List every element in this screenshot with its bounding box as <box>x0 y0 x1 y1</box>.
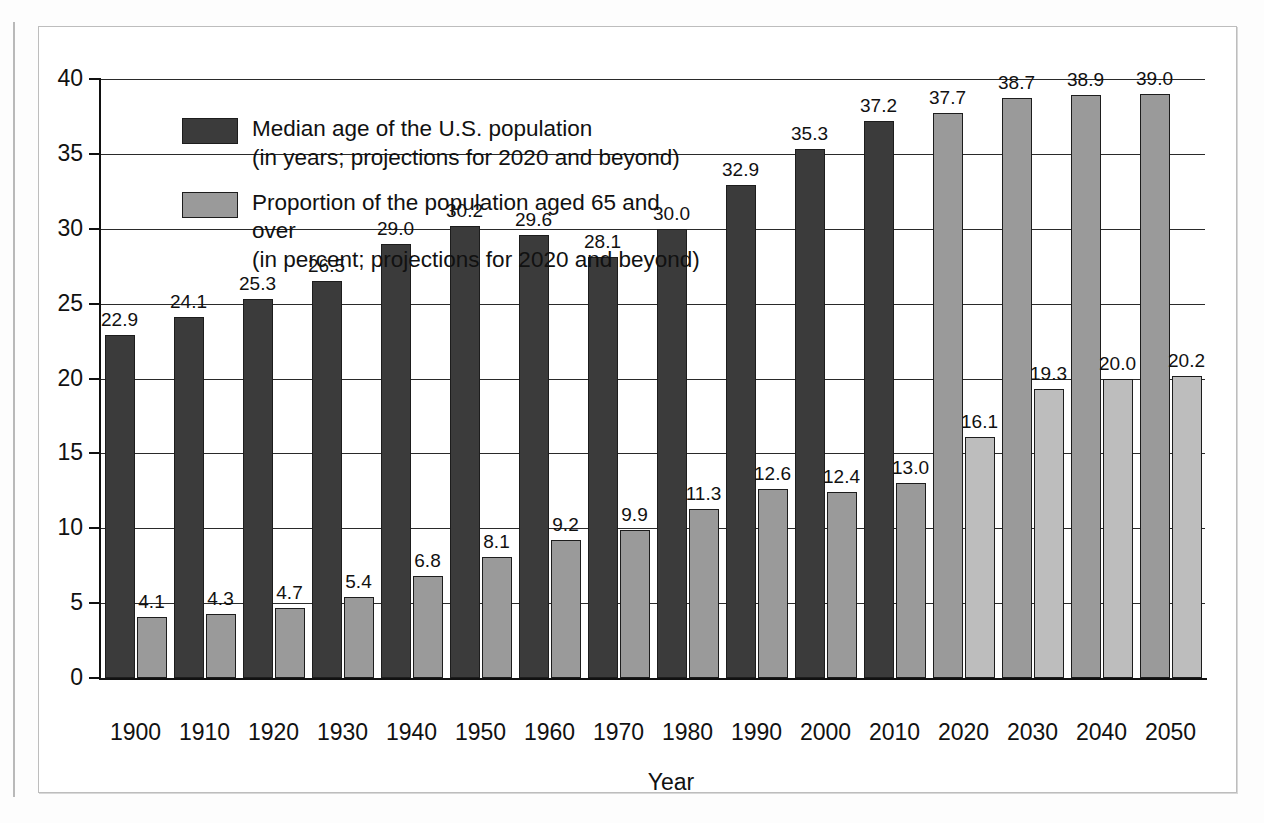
y-axis-label: 35 <box>21 142 83 165</box>
x-axis-label: 1970 <box>593 721 644 744</box>
bar <box>1103 379 1133 679</box>
bar <box>933 113 963 678</box>
bar <box>1002 98 1032 678</box>
y-axis-tick <box>89 378 101 380</box>
bar-value-label: 24.1 <box>170 292 207 311</box>
figure-frame: 051015202530354022.94.1190024.14.3191025… <box>38 26 1237 793</box>
x-axis-label: 1950 <box>455 721 506 744</box>
bar-value-label: 32.9 <box>722 160 759 179</box>
bar <box>758 489 788 678</box>
bar-value-label: 9.2 <box>552 515 578 534</box>
x-axis-label: 2040 <box>1076 721 1127 744</box>
bar-value-label: 20.2 <box>1168 351 1205 370</box>
y-axis-tick <box>89 452 101 454</box>
y-axis-label: 25 <box>21 292 83 315</box>
bar <box>381 244 411 678</box>
legend-label-line1: Median age of the U.S. population <box>252 115 680 144</box>
bar-value-label: 20.0 <box>1099 354 1136 373</box>
legend-swatch <box>182 118 238 144</box>
legend-label-line1: Proportion of the population aged 65 and… <box>252 189 702 247</box>
bar-value-label: 4.1 <box>138 592 164 611</box>
y-axis-tick <box>89 602 101 604</box>
bar <box>206 614 236 678</box>
y-axis-tick <box>89 153 101 155</box>
bar-value-label: 5.4 <box>345 572 371 591</box>
y-axis-tick <box>89 527 101 529</box>
bar-value-label: 16.1 <box>961 412 998 431</box>
bar-value-label: 39.0 <box>1136 69 1173 88</box>
legend-item: Median age of the U.S. population(in yea… <box>182 115 702 173</box>
bar-value-label: 38.9 <box>1067 70 1104 89</box>
bar <box>413 576 443 678</box>
y-axis-tick <box>89 677 101 679</box>
bar-value-label: 38.7 <box>998 73 1035 92</box>
x-axis-label: 1960 <box>524 721 575 744</box>
bar <box>588 257 618 678</box>
bar <box>450 226 480 678</box>
bar <box>620 530 650 678</box>
bar <box>657 229 687 678</box>
page-edge-rule <box>13 22 15 797</box>
bar <box>174 317 204 678</box>
y-axis-label: 30 <box>21 217 83 240</box>
bar <box>312 281 342 678</box>
bar <box>243 299 273 678</box>
y-axis-label: 40 <box>21 67 83 90</box>
bar <box>827 492 857 678</box>
bar <box>795 149 825 678</box>
bar-value-label: 8.1 <box>483 532 509 551</box>
bar <box>1034 389 1064 678</box>
bar <box>482 557 512 678</box>
bar <box>726 185 756 678</box>
bar <box>551 540 581 678</box>
y-axis-label: 5 <box>21 591 83 614</box>
x-axis-line <box>99 678 1207 680</box>
x-axis-label: 1900 <box>110 721 161 744</box>
legend-label: Proportion of the population aged 65 and… <box>252 189 702 275</box>
x-axis-label: 1990 <box>731 721 782 744</box>
bar-value-label: 19.3 <box>1030 364 1067 383</box>
bar-value-label: 12.6 <box>754 464 791 483</box>
bar <box>519 235 549 678</box>
x-axis-label: 2010 <box>869 721 920 744</box>
figure-page: 051015202530354022.94.1190024.14.3191025… <box>0 0 1264 823</box>
legend-item: Proportion of the population aged 65 and… <box>182 189 702 275</box>
legend-swatch <box>182 192 238 218</box>
bar-value-label: 12.4 <box>823 467 860 486</box>
bar <box>1140 94 1170 678</box>
x-axis-label: 1920 <box>248 721 299 744</box>
x-axis-label: 1910 <box>179 721 230 744</box>
x-axis-label: 1940 <box>386 721 437 744</box>
bar-value-label: 37.2 <box>860 96 897 115</box>
bar-value-label: 6.8 <box>414 551 440 570</box>
bar <box>689 509 719 678</box>
y-axis-label: 15 <box>21 441 83 464</box>
bar-value-label: 37.7 <box>929 88 966 107</box>
bar <box>864 121 894 678</box>
bar <box>965 437 995 678</box>
bar <box>896 483 926 678</box>
x-axis-title: Year <box>39 769 1264 796</box>
y-axis-tick <box>89 228 101 230</box>
bar <box>344 597 374 678</box>
x-axis-label: 2050 <box>1145 721 1196 744</box>
legend-label: Median age of the U.S. population(in yea… <box>252 115 680 173</box>
y-axis-label: 20 <box>21 367 83 390</box>
x-axis-label: 2020 <box>938 721 989 744</box>
gridline <box>101 79 1205 80</box>
bar <box>1172 376 1202 678</box>
chart-legend: Median age of the U.S. population(in yea… <box>182 115 702 291</box>
bar-value-label: 11.3 <box>686 484 722 503</box>
bar <box>1071 95 1101 678</box>
bar-value-label: 9.9 <box>621 505 647 524</box>
x-axis-label: 1980 <box>662 721 713 744</box>
y-axis-label: 0 <box>21 666 83 689</box>
bar-value-label: 35.3 <box>791 124 828 143</box>
x-axis-label: 1930 <box>317 721 368 744</box>
bar-value-label: 22.9 <box>101 310 138 329</box>
bar-value-label: 13.0 <box>892 458 929 477</box>
x-axis-label: 2030 <box>1007 721 1058 744</box>
bar <box>105 335 135 678</box>
bar <box>275 608 305 678</box>
legend-label-line2: (in years; projections for 2020 and beyo… <box>252 144 680 173</box>
